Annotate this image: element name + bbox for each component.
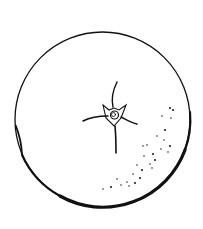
speckle-dot	[169, 107, 171, 109]
speckle-dot	[116, 178, 118, 180]
speckle-dot	[160, 148, 162, 150]
speckle-dot	[134, 182, 136, 184]
orange-svg	[0, 0, 203, 229]
speckle-dot	[110, 186, 112, 188]
speckle-dot	[152, 153, 154, 155]
navel-icon	[83, 82, 137, 153]
speckle-dot	[139, 177, 141, 179]
orange-illustration	[0, 0, 203, 229]
speckle-dot	[161, 115, 163, 117]
speckle-dot	[151, 167, 153, 169]
speckle-dot	[170, 117, 172, 119]
speckle-dot	[172, 109, 174, 111]
speckle-dot	[120, 184, 122, 186]
speckle-dot	[102, 188, 104, 190]
speckle-dot	[154, 159, 156, 161]
speckle-dot	[136, 164, 138, 166]
speckle-dot	[146, 144, 148, 146]
speckle-dot	[167, 151, 169, 153]
speckle-dot	[128, 185, 130, 187]
speckle-dot	[156, 135, 158, 137]
speckle-dot	[126, 181, 128, 183]
orange-outline	[15, 32, 190, 207]
speckle-dot	[149, 163, 151, 165]
speckle-dot	[132, 173, 134, 175]
speckle-dot	[163, 139, 165, 141]
speckle-dot	[141, 169, 143, 171]
speckle-dot	[143, 155, 145, 157]
speckle-dot	[169, 145, 171, 147]
speckle-dot	[164, 129, 166, 131]
speckle-dot	[142, 145, 144, 147]
